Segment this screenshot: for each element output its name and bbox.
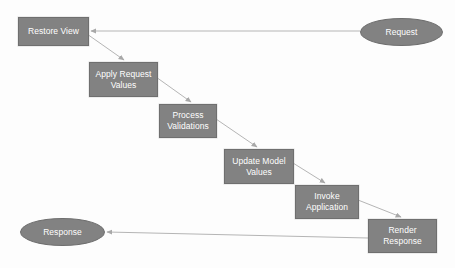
node-restore-view[interactable]: Restore View xyxy=(18,17,89,46)
node-response-label: Response xyxy=(41,227,84,238)
node-request-label: Request xyxy=(383,27,419,38)
edge-apply-request-values-to-process-validations xyxy=(156,77,191,102)
node-update-model-values-label: Update Model Values xyxy=(230,156,288,178)
edge-invoke-application-to-render-response xyxy=(358,200,401,217)
lifecycle-diagram: Request Restore View Apply Request Value… xyxy=(0,0,455,268)
node-request[interactable]: Request xyxy=(360,18,443,46)
node-render-response[interactable]: Render Response xyxy=(368,219,437,253)
node-process-validations[interactable]: Process Validations xyxy=(159,104,217,138)
node-restore-view-label: Restore View xyxy=(26,26,81,37)
node-process-validations-label: Process Validations xyxy=(165,110,211,132)
node-render-response-label: Render Response xyxy=(381,225,424,247)
edge-render-response-to-response xyxy=(107,232,368,238)
node-response[interactable]: Response xyxy=(20,218,105,246)
node-apply-request-values[interactable]: Apply Request Values xyxy=(89,62,158,97)
node-invoke-application-label: Invoke Application xyxy=(304,191,350,213)
node-update-model-values[interactable]: Update Model Values xyxy=(224,149,294,184)
edge-update-model-values-to-invoke-application xyxy=(293,163,325,183)
node-invoke-application[interactable]: Invoke Application xyxy=(295,185,359,219)
node-apply-request-values-label: Apply Request Values xyxy=(94,69,154,91)
edge-process-validations-to-update-model-values xyxy=(216,119,257,147)
edge-restore-view-to-apply-request-values xyxy=(87,34,124,60)
